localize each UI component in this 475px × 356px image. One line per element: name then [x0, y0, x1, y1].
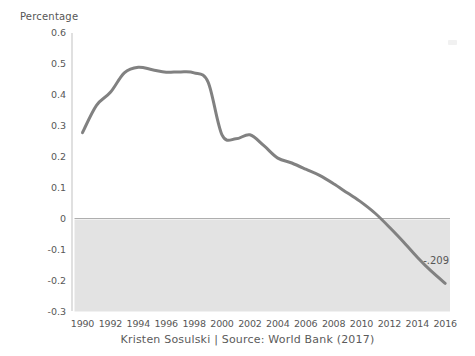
faint-artifact — [448, 40, 457, 45]
y-tick-label: -0.2 — [20, 274, 66, 288]
end-value-label: -.209 — [412, 255, 449, 266]
caption: Kristen Sosulski | Source: World Bank (2… — [20, 333, 475, 346]
y-tick-label: 0.5 — [20, 57, 66, 71]
y-tick-label: 0.2 — [20, 150, 66, 164]
y-tick-label: -0.1 — [20, 243, 66, 257]
x-tick-label: 2016 — [428, 317, 462, 331]
y-tick-label: 0.4 — [20, 88, 66, 102]
y-tick-label: 0 — [20, 212, 66, 226]
y-tick-label: 0.1 — [20, 181, 66, 195]
chart-canvas: Percentage 0.60.50.40.30.20.10-0.1-0.2-0… — [0, 0, 475, 356]
line-plot — [0, 0, 475, 356]
y-tick-label: 0.6 — [20, 26, 66, 40]
y-tick-label: 0.3 — [20, 119, 66, 133]
y-tick-label: -0.3 — [20, 305, 66, 319]
